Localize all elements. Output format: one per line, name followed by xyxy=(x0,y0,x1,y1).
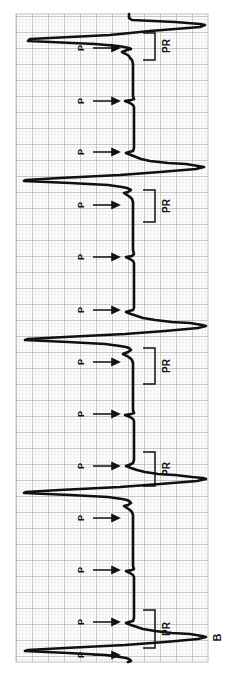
p-wave-label: P xyxy=(76,45,86,51)
p-wave-label: P xyxy=(76,254,86,260)
pr-interval-label: PR xyxy=(161,38,172,53)
ecg-figure: PPPPPPPPPPPPP PRPRPRPRPR B xyxy=(0,0,231,679)
p-wave-label: P xyxy=(76,411,86,417)
panel-label-b: B xyxy=(212,629,223,647)
p-wave-label: P xyxy=(76,567,86,573)
pr-interval-label: PR xyxy=(161,621,172,636)
p-wave-label: P xyxy=(76,463,86,469)
p-wave-label: P xyxy=(76,98,86,104)
ecg-strip-svg: PPPPPPPPPPPPP PRPRPRPRPR xyxy=(0,0,231,679)
pr-interval-label: PR xyxy=(161,358,172,373)
p-wave-label: P xyxy=(76,652,86,658)
pr-interval-label: PR xyxy=(161,198,172,213)
p-wave-label: P xyxy=(76,149,86,155)
p-wave-label: P xyxy=(76,359,86,365)
p-wave-label: P xyxy=(76,515,86,521)
p-wave-label: P xyxy=(76,307,86,313)
p-wave-label: P xyxy=(76,202,86,208)
p-wave-label: P xyxy=(76,619,86,625)
pr-interval-label: PR xyxy=(161,461,172,476)
